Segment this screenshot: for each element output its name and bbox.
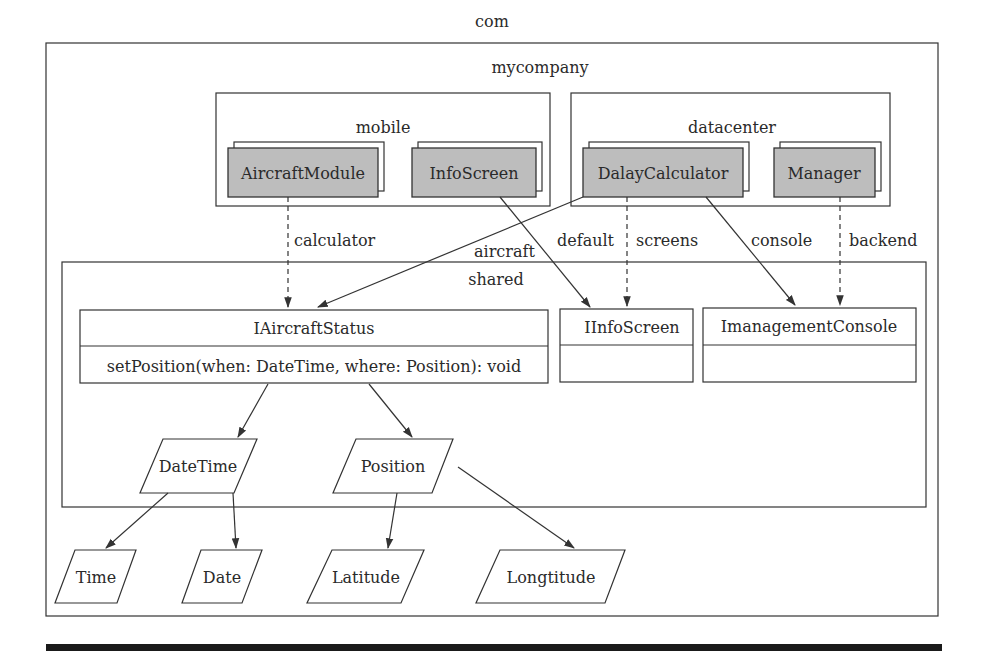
interface-iinfoscreen-name: IInfoScreen bbox=[584, 318, 679, 337]
package-com-label: com bbox=[475, 12, 509, 31]
edge-status-position bbox=[369, 384, 412, 437]
edge-label-calculator: calculator bbox=[294, 231, 376, 250]
type-longitude-label: Longtitude bbox=[507, 568, 596, 587]
package-mycompany-label: mycompany bbox=[491, 58, 588, 77]
type-latitude-label: Latitude bbox=[332, 568, 400, 587]
interface-imanagementconsole-name: ImanagementConsole bbox=[721, 317, 898, 336]
edge-aircraft bbox=[318, 197, 583, 307]
edge-status-datetime bbox=[238, 384, 268, 437]
edge-label-default: default bbox=[557, 231, 615, 250]
edge-position-latitude bbox=[388, 493, 397, 548]
type-datetime-label: DateTime bbox=[159, 457, 238, 476]
interface-iaircraftstatus-method: setPosition(when: DateTime, where: Posit… bbox=[107, 357, 521, 376]
type-position-label: Position bbox=[361, 457, 426, 476]
package-datacenter-label: datacenter bbox=[688, 118, 776, 137]
footer-bar bbox=[46, 644, 942, 651]
component-manager-label: Manager bbox=[787, 164, 860, 183]
edge-label-aircraft: aircraft bbox=[474, 242, 535, 261]
edge-console bbox=[706, 197, 795, 305]
component-aircraftmodule-label: AircraftModule bbox=[240, 164, 365, 183]
component-delaycalculator-label: DalayCalculator bbox=[598, 164, 729, 183]
edge-datetime-time bbox=[106, 493, 168, 548]
interface-iaircraftstatus-name: IAircraftStatus bbox=[253, 319, 374, 338]
package-mobile-label: mobile bbox=[356, 118, 411, 137]
edge-datetime-date bbox=[233, 493, 236, 548]
type-date-label: Date bbox=[203, 568, 241, 587]
type-time-label: Time bbox=[76, 568, 116, 587]
edge-label-console: console bbox=[751, 231, 812, 250]
edge-label-screens: screens bbox=[636, 231, 698, 250]
edge-label-backend: backend bbox=[849, 231, 917, 250]
component-infoscreen-label: InfoScreen bbox=[430, 164, 519, 183]
package-shared-label: shared bbox=[468, 270, 523, 289]
